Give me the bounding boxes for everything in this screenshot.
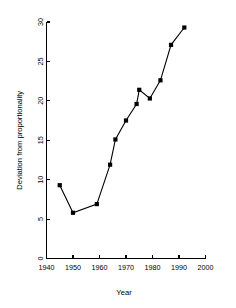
data-point-marker (169, 43, 173, 47)
x-axis-tick-label: 1990 (171, 263, 187, 272)
series-markers (58, 25, 187, 214)
data-point-marker (148, 96, 152, 100)
y-axis-title: Deviation from proportionality (15, 91, 24, 190)
x-axis-tick-label: 1980 (145, 263, 161, 272)
chart-figure: 1940195019601970198019902000 05101520253… (0, 0, 236, 308)
data-point-marker (113, 137, 117, 141)
data-point-marker (158, 78, 162, 82)
data-point-marker (135, 102, 139, 106)
y-axis-tick-label: 10 (36, 176, 45, 184)
y-axis-tick-label: 15 (36, 136, 45, 144)
x-axis-title: Year (116, 288, 132, 297)
y-axis-tick-label: 30 (36, 18, 45, 26)
data-point-marker (108, 163, 112, 167)
x-axis-tick-label: 1950 (65, 263, 81, 272)
data-point-marker (124, 118, 128, 122)
x-axis-tick-label: 1960 (92, 263, 108, 272)
y-axis-tick-label: 0 (36, 257, 45, 261)
data-series (58, 25, 187, 214)
data-point-marker (71, 211, 75, 215)
y-axis-tick-labels: 051015202530 (36, 18, 45, 261)
data-point-marker (95, 202, 99, 206)
series-line-deviation (60, 28, 185, 213)
axes (47, 22, 206, 259)
data-point-marker (58, 183, 62, 187)
line-chart: 1940195019601970198019902000 05101520253… (0, 0, 236, 308)
y-axis-tick-label: 25 (36, 57, 45, 65)
data-point-marker (137, 88, 141, 92)
x-axis-tick-label: 1970 (118, 263, 134, 272)
x-axis-tick-labels: 1940195019601970198019902000 (39, 263, 214, 272)
data-point-marker (182, 25, 186, 29)
y-axis-tick-label: 20 (36, 97, 45, 105)
x-axis-tick-label: 2000 (198, 263, 214, 272)
y-axis-tick-label: 5 (36, 217, 45, 221)
x-axis-tick-label: 1940 (39, 263, 55, 272)
